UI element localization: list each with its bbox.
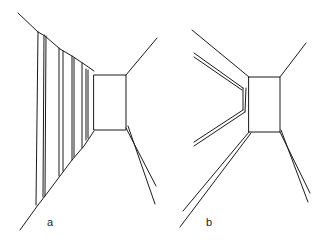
floor-edge-right (128, 126, 155, 204)
end-wall (249, 77, 280, 132)
panel-label-b: b (206, 216, 212, 228)
niche-bottom-edge (194, 110, 243, 142)
ceiling-edge-right (280, 43, 306, 77)
ceiling-edge-left (192, 30, 249, 77)
floor-edge-left (20, 205, 38, 230)
niche-bottom-edge (194, 112, 245, 146)
floor-edge-right (126, 128, 156, 186)
panel-line (43, 35, 44, 197)
ceiling-edge-left (18, 13, 38, 32)
panel-line (36, 32, 38, 205)
panel-label-a: a (47, 216, 54, 228)
panel-line (45, 36, 46, 196)
floor-edge-left (183, 132, 249, 211)
ceiling-edge-right (126, 38, 157, 75)
panel-b: b (180, 30, 310, 228)
left-wall-bottom-edge (38, 131, 94, 205)
figure-canvas: a b (0, 0, 327, 241)
niche-top-edge (194, 57, 242, 90)
floor-edge-right (280, 132, 310, 193)
end-wall (94, 75, 126, 130)
floor-edge-left (180, 133, 251, 227)
niche-vertical (245, 88, 246, 112)
panel-a: a (18, 13, 157, 230)
floor-edge-right (281, 130, 308, 202)
niche-top-edge (194, 53, 243, 88)
